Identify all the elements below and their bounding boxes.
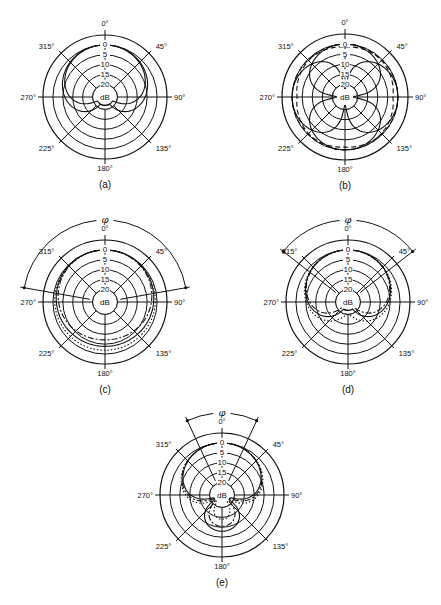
angle-label: 0° bbox=[101, 19, 108, 28]
db-ring-label: 5 bbox=[220, 448, 225, 457]
arrowhead-icon bbox=[255, 419, 258, 422]
panel-caption: (c) bbox=[99, 384, 111, 395]
radial-line bbox=[357, 311, 394, 348]
db-ring-label: 20 bbox=[218, 478, 227, 487]
radial-line bbox=[114, 256, 151, 293]
db-ring-label: 0 bbox=[220, 438, 225, 447]
radial-line bbox=[302, 311, 339, 348]
db-ring-label: 10 bbox=[218, 458, 227, 467]
db-ring-label: 5 bbox=[343, 50, 348, 59]
angle-label: 315° bbox=[278, 42, 294, 51]
angle-label: 270° bbox=[263, 298, 279, 307]
polar-panel-a: 05101520dB0°45°90°135°180°225°270°315°(a… bbox=[20, 19, 185, 190]
angle-label: 180° bbox=[214, 562, 230, 571]
angle-label: 225° bbox=[156, 542, 172, 551]
db-unit-label: dB bbox=[217, 491, 227, 500]
db-ring-label: 0 bbox=[103, 40, 108, 49]
radial-line bbox=[114, 311, 151, 348]
db-ring-label: 15 bbox=[344, 275, 353, 284]
angle-label: 225° bbox=[278, 144, 294, 153]
arrowhead-icon bbox=[282, 250, 285, 253]
db-ring-label: 10 bbox=[101, 265, 110, 274]
angle-label: 315° bbox=[39, 42, 55, 51]
angle-label: 0° bbox=[344, 224, 351, 233]
angle-label: 180° bbox=[337, 165, 353, 174]
db-unit-label: dB bbox=[100, 298, 110, 307]
angle-label: 135° bbox=[156, 349, 172, 358]
angle-label: 270° bbox=[259, 93, 275, 102]
angle-label: 90° bbox=[174, 93, 185, 102]
angle-label: 45° bbox=[396, 42, 407, 51]
radial-line bbox=[59, 256, 96, 293]
phi-label: φ bbox=[218, 407, 225, 418]
db-ring-label: 10 bbox=[344, 265, 353, 274]
angle-label: 135° bbox=[396, 144, 412, 153]
db-unit-label: dB bbox=[343, 298, 353, 307]
radial-line bbox=[114, 106, 151, 143]
arrowhead-icon bbox=[186, 419, 189, 422]
angle-label: 90° bbox=[417, 298, 428, 307]
polar-panel-e: 05101520dB0°45°90°135°180°225°270°315°φ(… bbox=[137, 407, 302, 588]
angle-label: 315° bbox=[39, 247, 55, 256]
angle-label: 180° bbox=[97, 369, 113, 378]
db-ring-label: 20 bbox=[344, 285, 353, 294]
db-unit-label: dB bbox=[100, 93, 110, 102]
radial-line bbox=[302, 256, 339, 293]
db-ring-label: 20 bbox=[101, 80, 110, 89]
angle-label: 90° bbox=[415, 93, 426, 102]
db-ring-label: 0 bbox=[346, 245, 351, 254]
db-ring-label: 15 bbox=[341, 70, 350, 79]
phi-arc bbox=[187, 413, 213, 420]
db-ring-label: 15 bbox=[101, 70, 110, 79]
angle-label: 0° bbox=[341, 18, 348, 27]
db-ring-label: 15 bbox=[218, 468, 227, 477]
arrowhead-icon bbox=[411, 250, 414, 253]
angle-label: 270° bbox=[137, 491, 153, 500]
db-ring-label: 5 bbox=[103, 255, 108, 264]
polar-diagram-figure: 05101520dB0°45°90°135°180°225°270°315°(a… bbox=[0, 0, 441, 605]
angle-label: 90° bbox=[291, 491, 302, 500]
polar-panel-b: 05101520dB0°45°90°135°180°225°270°315°(b… bbox=[259, 18, 426, 191]
angle-label: 270° bbox=[20, 93, 36, 102]
angle-label: 0° bbox=[101, 224, 108, 233]
db-ring-label: 0 bbox=[103, 245, 108, 254]
angle-label: 225° bbox=[39, 349, 55, 358]
arrowhead-icon bbox=[184, 286, 187, 289]
phi-arc bbox=[231, 413, 257, 420]
angle-label: 135° bbox=[156, 144, 172, 153]
angle-label: 45° bbox=[273, 440, 284, 449]
db-ring-label: 15 bbox=[101, 275, 110, 284]
angle-label: 225° bbox=[282, 349, 298, 358]
angle-label: 315° bbox=[156, 440, 172, 449]
db-ring-label: 5 bbox=[103, 50, 108, 59]
db-ring-label: 5 bbox=[346, 255, 351, 264]
angle-label: 135° bbox=[399, 349, 415, 358]
db-ring-label: 10 bbox=[341, 60, 350, 69]
polar-panel-c: 05101520dB0°45°90°135°180°225°270°315°φ(… bbox=[20, 214, 189, 395]
panel-caption: (a) bbox=[99, 179, 111, 190]
db-ring-label: 20 bbox=[101, 285, 110, 294]
panel-caption: (b) bbox=[339, 180, 351, 191]
angle-label: 0° bbox=[218, 417, 225, 426]
angle-label: 135° bbox=[273, 542, 289, 551]
radial-line bbox=[59, 106, 96, 143]
phi-label: φ bbox=[344, 214, 351, 225]
radial-line bbox=[231, 504, 268, 541]
db-ring-label: 20 bbox=[341, 80, 350, 89]
panel-caption: (d) bbox=[342, 384, 354, 395]
db-ring-label: 0 bbox=[343, 40, 348, 49]
radial-line bbox=[176, 504, 213, 541]
panel-caption: (e) bbox=[216, 577, 228, 588]
angle-label: 180° bbox=[340, 369, 356, 378]
db-unit-label: dB bbox=[340, 93, 350, 102]
angle-label: 225° bbox=[39, 144, 55, 153]
angle-label: 270° bbox=[20, 298, 36, 307]
polar-panel-d: 05101520dB0°45°90°135°180°225°270°315°φ(… bbox=[263, 214, 428, 395]
phi-label: φ bbox=[101, 214, 108, 225]
db-ring-label: 10 bbox=[101, 60, 110, 69]
angle-label: 180° bbox=[97, 164, 113, 173]
angle-label: 45° bbox=[156, 42, 167, 51]
angle-label: 90° bbox=[174, 298, 185, 307]
angle-label: 45° bbox=[156, 247, 167, 256]
arrowhead-icon bbox=[23, 286, 26, 289]
